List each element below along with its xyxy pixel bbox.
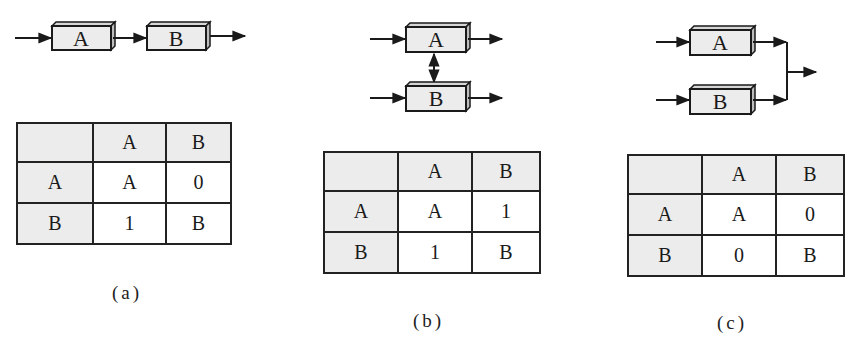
- table-cell: 0: [166, 162, 231, 203]
- table-cell: B: [166, 203, 231, 244]
- box-a: A: [690, 26, 755, 55]
- column-header: A: [702, 155, 776, 194]
- table-cell: B: [472, 232, 540, 273]
- box-label: A: [428, 27, 444, 52]
- table-cell: 1: [472, 191, 540, 232]
- table-cell: 0: [776, 194, 844, 235]
- relation-table-a: A B A A 0 B 1 B: [16, 122, 232, 245]
- table-row: A A 0: [17, 162, 231, 203]
- box-b: B: [406, 82, 470, 111]
- table-cell: A: [93, 162, 166, 203]
- table-row: B 1 B: [17, 203, 231, 244]
- box-label: B: [713, 89, 728, 114]
- caption-b: (b): [413, 310, 444, 332]
- row-header: B: [324, 232, 398, 273]
- box-a: A: [406, 23, 470, 52]
- table-row: B 1 B: [324, 232, 540, 273]
- table-row: A A 1: [324, 191, 540, 232]
- table-cell: A: [702, 194, 776, 235]
- table-cell: A: [398, 191, 472, 232]
- corner-cell: [324, 152, 398, 191]
- row-header: A: [324, 191, 398, 232]
- caption-a: (a): [112, 282, 142, 304]
- column-header: B: [472, 152, 540, 191]
- table-row: B 0 B: [628, 235, 844, 276]
- table-cell: 1: [93, 203, 166, 244]
- table-cell: 1: [398, 232, 472, 273]
- table-cell: B: [776, 235, 844, 276]
- table-row: A A 0: [628, 194, 844, 235]
- corner-cell: [17, 123, 93, 162]
- caption-c: (c): [717, 312, 747, 334]
- row-header: B: [628, 235, 702, 276]
- box-label: A: [712, 30, 728, 55]
- box-b: B: [690, 85, 755, 114]
- row-header: B: [17, 203, 93, 244]
- diagram-a: A B: [15, 22, 245, 51]
- box-a: A: [52, 22, 115, 51]
- column-header: A: [93, 123, 166, 162]
- column-header: B: [776, 155, 844, 194]
- column-header: B: [166, 123, 231, 162]
- corner-cell: [628, 155, 702, 194]
- relation-table-b: A B A A 1 B 1 B: [323, 151, 541, 274]
- diagram-b: A B: [370, 23, 502, 111]
- box-label: A: [73, 26, 89, 51]
- box-label: B: [169, 26, 184, 51]
- box-b: B: [147, 22, 210, 51]
- figure-panel: A B A: [0, 0, 857, 343]
- row-header: A: [17, 162, 93, 203]
- diagram-c: A B: [656, 26, 816, 114]
- box-label: B: [429, 86, 444, 111]
- relation-table-c: A B A A 0 B 0 B: [627, 154, 845, 277]
- column-header: A: [398, 152, 472, 191]
- table-cell: 0: [702, 235, 776, 276]
- row-header: A: [628, 194, 702, 235]
